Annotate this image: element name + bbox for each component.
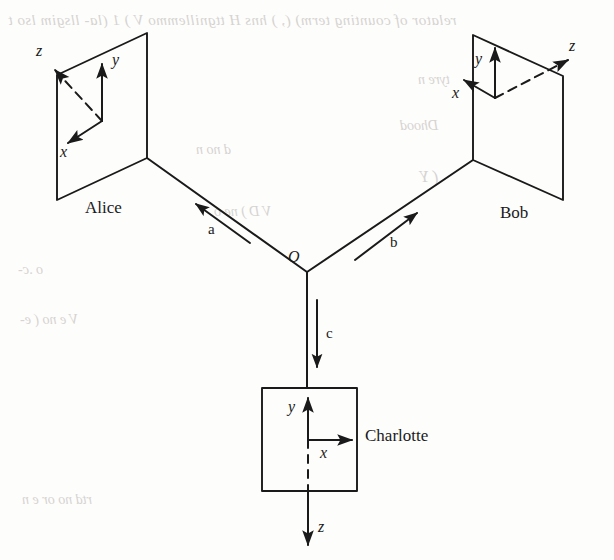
origin-label: O	[288, 248, 300, 266]
alice-z-axis-label: z	[36, 42, 42, 60]
ray-arrow-b	[355, 213, 417, 260]
alice-x-axis-label: x	[60, 143, 67, 161]
charlotte-x-axis-label: x	[320, 444, 327, 462]
diagram-canvas	[0, 0, 614, 560]
alice-z-axis	[55, 70, 102, 121]
ray-b-label: b	[390, 234, 398, 251]
alice-axes	[55, 64, 102, 143]
ray-line-b	[307, 160, 473, 272]
alice-observer-label: Alice	[85, 198, 122, 218]
ray-line-a	[147, 158, 307, 272]
figure-root: relator of counting term) (, ) hns H ttg…	[0, 0, 614, 560]
ray-a-label: a	[208, 221, 215, 238]
charlotte-observer-label: Charlotte	[365, 426, 428, 446]
rays	[147, 158, 473, 388]
alice-y-axis-label: y	[112, 51, 119, 69]
bob-x-axis	[464, 80, 495, 98]
bob-z-axis	[495, 60, 568, 98]
alice-x-axis	[68, 121, 102, 143]
charlotte-axes	[308, 398, 352, 545]
bob-x-axis-label: x	[452, 84, 459, 102]
ray-c-label: c	[326, 325, 333, 342]
bob-y-axis-label: y	[475, 50, 482, 68]
bob-observer-label: Bob	[500, 203, 528, 223]
charlotte-z-axis-label: z	[318, 518, 324, 536]
charlotte-y-axis-label: y	[288, 398, 295, 416]
ray-arrow-a	[196, 204, 250, 243]
bob-z-axis-label: z	[569, 37, 575, 55]
bob-panel	[473, 35, 563, 200]
